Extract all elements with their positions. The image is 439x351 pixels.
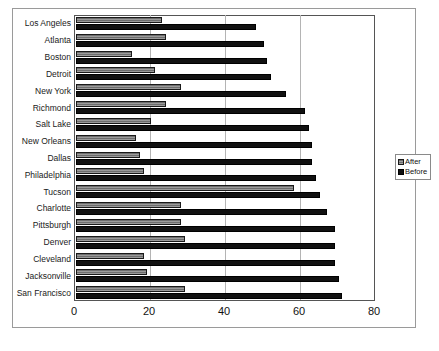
x-tick-80: 80: [354, 305, 394, 317]
category-label-salt-lake: Salt Lake: [36, 119, 71, 129]
category-label-philadelphia: Philadelphia: [25, 170, 71, 180]
bar-after-pittsburgh: [76, 219, 181, 225]
legend-label: After: [405, 157, 421, 167]
bar-group: [76, 15, 374, 32]
bar-after-philadelphia: [76, 168, 144, 174]
plot-right-border: [374, 15, 375, 301]
legend-entry-before: Before: [398, 167, 427, 177]
bar-after-charlotte: [76, 202, 181, 208]
category-label-los-angeles: Los Angeles: [25, 18, 71, 28]
category-label-jacksonville: Jacksonville: [25, 271, 71, 281]
bar-after-atlanta: [76, 34, 166, 40]
legend-label: Before: [405, 167, 427, 177]
bar-group: [76, 116, 374, 133]
y-axis-category-labels: Los AngelesAtlantaBostonDetroitNew YorkR…: [13, 15, 71, 301]
category-label-atlanta: Atlanta: [45, 35, 71, 45]
bar-before-pittsburgh: [76, 226, 335, 232]
category-label-tucson: Tucson: [43, 187, 71, 197]
category-label-charlotte: Charlotte: [37, 203, 72, 213]
bar-group: [76, 150, 374, 167]
bar-group: [76, 166, 374, 183]
bar-before-new-orleans: [76, 142, 312, 148]
bar-group: [76, 267, 374, 284]
bar-before-charlotte: [76, 209, 327, 215]
bar-before-salt-lake: [76, 125, 309, 131]
category-label-cleveland: Cleveland: [33, 254, 71, 264]
chart-frame: Los AngelesAtlantaBostonDetroitNew YorkR…: [12, 8, 416, 328]
category-label-dallas: Dallas: [47, 153, 71, 163]
bar-after-los-angeles: [76, 17, 162, 23]
category-label-detroit: Detroit: [46, 69, 71, 79]
bar-after-dallas: [76, 152, 140, 158]
bar-group: [76, 251, 374, 268]
bar-after-cleveland: [76, 253, 144, 259]
bar-before-richmond: [76, 108, 305, 114]
bar-before-philadelphia: [76, 175, 316, 181]
bar-before-los-angeles: [76, 24, 256, 30]
bar-after-detroit: [76, 67, 155, 73]
bar-after-new-orleans: [76, 135, 136, 141]
bar-before-denver: [76, 243, 335, 249]
bar-before-detroit: [76, 74, 271, 80]
x-tick-40: 40: [204, 305, 244, 317]
bar-after-jacksonville: [76, 269, 147, 275]
legend-swatch-after-icon: [398, 159, 404, 165]
category-label-new-york: New York: [35, 86, 71, 96]
bar-before-jacksonville: [76, 276, 339, 282]
category-label-san-francisco: San Francisco: [17, 288, 71, 298]
bar-before-atlanta: [76, 41, 264, 47]
bar-before-tucson: [76, 192, 320, 198]
bar-after-denver: [76, 236, 185, 242]
bar-after-san-francisco: [76, 286, 185, 292]
x-tick-0: 0: [54, 305, 94, 317]
x-tick-60: 60: [279, 305, 319, 317]
bar-after-salt-lake: [76, 118, 151, 124]
bar-before-san-francisco: [76, 293, 342, 299]
legend-entry-after: After: [398, 157, 427, 167]
x-tick-20: 20: [129, 305, 169, 317]
category-label-boston: Boston: [45, 52, 71, 62]
bar-group: [76, 32, 374, 49]
legend-swatch-before-icon: [398, 169, 404, 175]
bar-group: [76, 133, 374, 150]
bar-group: [76, 217, 374, 234]
plot-area: [74, 15, 374, 301]
bar-after-tucson: [76, 185, 294, 191]
bar-group: [76, 82, 374, 99]
category-label-new-orleans: New Orleans: [22, 136, 71, 146]
bar-group: [76, 49, 374, 66]
bar-after-boston: [76, 51, 132, 57]
bar-before-cleveland: [76, 260, 335, 266]
category-label-denver: Denver: [44, 237, 71, 247]
category-label-pittsburgh: Pittsburgh: [33, 220, 71, 230]
chart-legend: AfterBefore: [395, 154, 431, 180]
category-label-richmond: Richmond: [33, 103, 71, 113]
bar-group: [76, 284, 374, 301]
bar-before-boston: [76, 58, 267, 64]
bar-before-new-york: [76, 91, 286, 97]
bar-group: [76, 99, 374, 116]
bar-group: [76, 183, 374, 200]
bar-after-richmond: [76, 101, 166, 107]
bar-after-new-york: [76, 84, 181, 90]
bar-group: [76, 200, 374, 217]
bar-group: [76, 65, 374, 82]
bar-group: [76, 234, 374, 251]
bar-before-dallas: [76, 159, 312, 165]
